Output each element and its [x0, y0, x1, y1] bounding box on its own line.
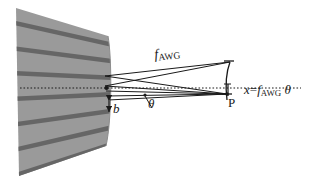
arrayed-waveguide-slab: [10, 8, 118, 177]
label-displacement-equation: x=fAWG θ: [244, 83, 291, 96]
ray-bundle: [104, 62, 230, 100]
b-symbol: b: [113, 101, 120, 116]
label-angle-theta: θ: [148, 97, 154, 110]
theta-symbol: θ: [148, 96, 154, 111]
theta-anchor-dot: [143, 93, 146, 96]
label-focal-point-p: P: [228, 96, 235, 109]
figure-container: fAWG θ b P x=fAWG θ: [0, 0, 309, 182]
x-eq-theta-symbol: θ: [284, 82, 290, 97]
x-eq-f-subscript: AWG: [261, 88, 281, 98]
label-waveguide-pitch-b: b: [113, 102, 120, 115]
p-symbol: P: [228, 95, 235, 110]
label-focal-length-fawg: fAWG: [154, 45, 181, 62]
aperture-focus-dot: [104, 86, 108, 90]
